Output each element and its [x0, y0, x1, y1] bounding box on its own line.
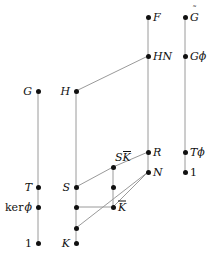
- node-one_R: [183, 170, 188, 175]
- node-F: [146, 15, 151, 20]
- edge-S-SKbar: [76, 167, 113, 187]
- node-N: [146, 170, 151, 175]
- node-label-G: G: [23, 86, 32, 97]
- node-G: [36, 89, 41, 94]
- node-Kbar: [111, 205, 116, 210]
- node-T: [36, 185, 41, 190]
- node-label-R: R: [153, 147, 161, 158]
- edge-H-HN: [76, 56, 148, 91]
- node-Gphi: [183, 54, 188, 59]
- node-label-K: K: [62, 238, 70, 249]
- node-R: [146, 150, 151, 155]
- node-label-kerphi: ker ϕ: [5, 202, 32, 213]
- node-c1: [111, 185, 116, 190]
- node-one_L: [36, 241, 41, 246]
- node-label-Gtil: G˜: [190, 12, 199, 23]
- node-label-SKbar: SK: [115, 152, 131, 163]
- node-HN: [146, 54, 151, 59]
- node-m2: [74, 226, 79, 231]
- node-Tphi: [183, 150, 188, 155]
- node-label-Kbar: K: [118, 202, 126, 213]
- node-label-T: T: [25, 182, 32, 193]
- subgroup-lattice-diagram: GTker ϕ1HSKSKKFHNRNG˜GϕTϕ1: [0, 0, 223, 256]
- node-label-H: H: [60, 86, 70, 97]
- edge-layer: [0, 0, 223, 256]
- node-label-N: N: [153, 167, 163, 178]
- edge-m2-N: [76, 172, 148, 228]
- node-m1: [74, 205, 79, 210]
- node-S: [74, 185, 79, 190]
- node-label-Tphi: Tϕ: [190, 147, 205, 158]
- node-H: [74, 89, 79, 94]
- node-Gtil: [183, 15, 188, 20]
- node-kerphi: [36, 205, 41, 210]
- node-label-S: S: [62, 182, 70, 193]
- node-SKbar: [111, 165, 116, 170]
- node-label-F: F: [153, 12, 161, 23]
- node-K: [74, 241, 79, 246]
- node-label-Gphi: Gϕ: [190, 51, 206, 62]
- node-label-one_R: 1: [190, 167, 197, 178]
- node-label-one_L: 1: [25, 238, 32, 249]
- node-label-HN: HN: [153, 51, 172, 62]
